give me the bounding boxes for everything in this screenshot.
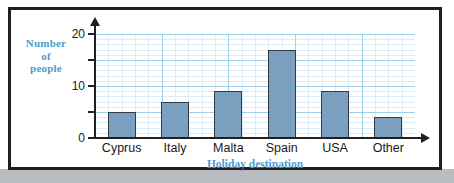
x-tick-label-malta: Malta	[202, 141, 255, 155]
x-tick-label-other: Other	[362, 141, 415, 155]
y-tick-5	[88, 111, 95, 113]
x-axis-label: Holiday destination	[95, 158, 415, 170]
bar-other[interactable]	[374, 117, 402, 138]
bar-italy[interactable]	[161, 102, 189, 138]
chart-page: Number of people	[0, 0, 454, 183]
x-tick-label-italy: Italy	[148, 141, 201, 155]
bar-malta[interactable]	[214, 91, 242, 138]
bar-slot-malta	[202, 34, 255, 138]
y-tick-label-0: 0	[59, 131, 85, 145]
y-tick-0	[88, 137, 95, 139]
x-tick-label-cyprus: Cyprus	[95, 141, 148, 155]
y-tick-10	[88, 85, 95, 87]
bar-slot-other	[362, 34, 415, 138]
page-top-margin	[0, 0, 454, 4]
chart-frame: Number of people	[8, 7, 442, 170]
y-axis-label: Number of people	[15, 37, 77, 75]
bar-usa[interactable]	[321, 91, 349, 138]
bar-series	[95, 34, 415, 138]
bar-chart-figure: Number of people	[11, 10, 445, 173]
y-tick-label-10: 10	[59, 79, 85, 93]
bar-cyprus[interactable]	[108, 112, 136, 138]
bar-slot-usa	[308, 34, 361, 138]
y-axis-arrow-icon	[90, 17, 100, 26]
x-axis-arrow-icon	[421, 133, 430, 143]
x-axis-line	[94, 137, 424, 139]
x-axis-tick-labels: Cyprus Italy Malta Spain USA Other	[95, 141, 415, 155]
y-axis-label-line-2: of	[15, 50, 77, 63]
y-tick-label-20: 20	[59, 27, 85, 41]
y-axis-line	[94, 24, 96, 139]
bar-slot-cyprus	[95, 34, 148, 138]
y-axis-label-line-3: people	[15, 62, 77, 75]
x-tick-label-spain: Spain	[255, 141, 308, 155]
bar-spain[interactable]	[268, 50, 296, 138]
x-tick-label-usa: USA	[308, 141, 361, 155]
plot-area	[95, 34, 415, 138]
bar-slot-italy	[148, 34, 201, 138]
y-tick-15	[88, 59, 95, 61]
y-tick-20	[88, 33, 95, 35]
bar-slot-spain	[255, 34, 308, 138]
